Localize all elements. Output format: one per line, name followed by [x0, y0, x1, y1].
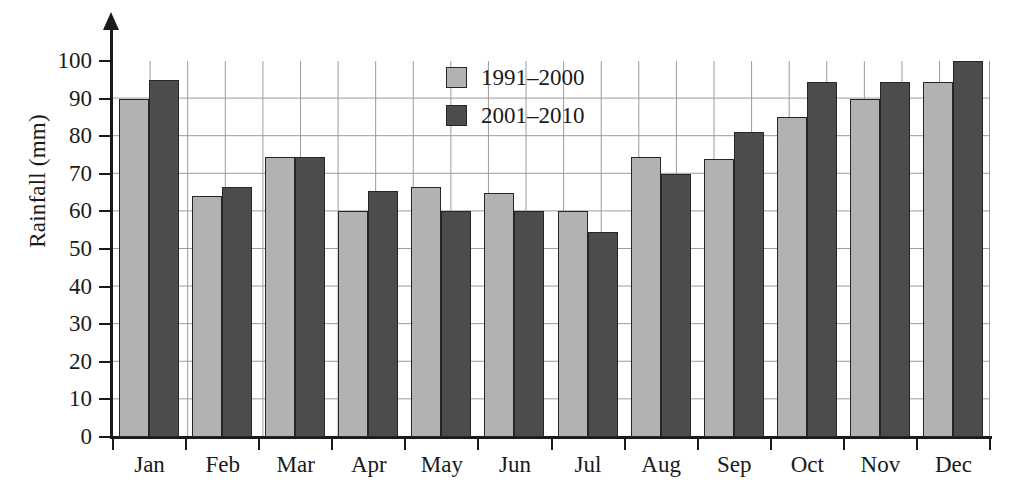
x-axis-tick-label: May [402, 452, 482, 477]
x-axis-tick-label: Mar [256, 452, 336, 477]
y-axis-tick-value: 20 [36, 350, 92, 373]
y-axis-tick-label: 90 [28, 87, 92, 111]
y-axis-tick-value: 80 [36, 124, 92, 147]
y-axis-tick-label: 30 [28, 312, 92, 336]
y-axis-tick-value: 0 [36, 425, 92, 448]
x-axis-tick [624, 437, 626, 450]
bar [441, 211, 471, 437]
y-axis-tick-label: 60 [28, 199, 92, 223]
y-axis-tick-label: 50 [28, 237, 92, 261]
y-axis-tick-label: 100 [28, 49, 92, 73]
y-axis-tick-label: 0 [28, 425, 92, 449]
y-axis-tick-value: 100 [36, 49, 92, 72]
y-axis-tick-label: 80 [28, 124, 92, 148]
x-axis-tick [185, 437, 187, 450]
x-axis-tick [551, 437, 553, 450]
y-axis-tick-label: 40 [28, 275, 92, 299]
y-axis-tick [99, 361, 113, 363]
x-axis-tick-label: Oct [767, 452, 847, 477]
x-axis-tick-label: Feb [183, 452, 263, 477]
legend-swatch [446, 105, 467, 126]
x-axis-tick [477, 437, 479, 450]
bar [368, 191, 398, 437]
bar [807, 82, 837, 437]
legend-label: 2001–2010 [481, 104, 585, 127]
x-axis-tick [112, 437, 114, 450]
legend-swatch [446, 67, 467, 88]
bar [514, 211, 544, 437]
bar [295, 157, 325, 437]
bar [558, 211, 588, 437]
y-axis-tick-value: 60 [36, 199, 92, 222]
x-axis-tick-label: Sep [694, 452, 774, 477]
bar [192, 196, 222, 437]
y-axis-arrow-icon [103, 12, 119, 30]
bar [222, 187, 252, 437]
x-axis-tick [843, 437, 845, 450]
bar [777, 117, 807, 437]
y-axis-tick [99, 398, 113, 400]
x-axis-tick [989, 437, 991, 450]
y-axis-tick [99, 323, 113, 325]
bar [734, 132, 764, 437]
legend-label: 1991–2000 [481, 66, 585, 89]
bar [923, 82, 953, 437]
y-axis-tick-label: 10 [28, 387, 92, 411]
y-axis-tick [99, 135, 113, 137]
x-axis-tick-label: Jun [475, 452, 555, 477]
x-axis-tick [404, 437, 406, 450]
y-axis-tick-value: 90 [36, 87, 92, 110]
bar [850, 99, 880, 437]
y-axis-tick-value: 40 [36, 275, 92, 298]
x-axis-tick [258, 437, 260, 450]
x-axis-tick-label: Jul [548, 452, 628, 477]
y-axis-tick [99, 286, 113, 288]
legend-item: 2001–2010 [446, 96, 585, 134]
y-axis-line [110, 26, 113, 439]
y-axis-tick-label: 20 [28, 350, 92, 374]
bar [631, 157, 661, 437]
x-axis-tick [770, 437, 772, 450]
y-axis-tick [99, 173, 113, 175]
bar [149, 80, 179, 437]
y-axis-tick-value: 70 [36, 162, 92, 185]
bar [338, 211, 368, 437]
legend-item: 1991–2000 [446, 58, 585, 96]
y-axis-tick [99, 60, 113, 62]
x-axis-tick-label: Jan [110, 452, 190, 477]
bar [119, 99, 149, 437]
legend: 1991–20002001–2010 [446, 58, 585, 134]
y-axis-tick [99, 98, 113, 100]
x-axis-tick [331, 437, 333, 450]
rainfall-bar-chart: Rainfall (mm) 0102030405060708090100 Jan… [0, 0, 1015, 502]
y-axis-tick-value: 30 [36, 312, 92, 335]
y-axis-tick [99, 248, 113, 250]
x-axis-tick-label: Aug [621, 452, 701, 477]
y-axis-tick-value: 50 [36, 237, 92, 260]
y-axis-tick-value: 10 [36, 387, 92, 410]
bar [265, 157, 295, 437]
grid-right-edge [989, 61, 990, 437]
x-axis-tick-label: Dec [913, 452, 993, 477]
x-axis-tick-label: Nov [840, 452, 920, 477]
bar [704, 159, 734, 437]
y-axis-tick [99, 436, 113, 438]
x-axis-tick-label: Apr [329, 452, 409, 477]
x-axis-tick [697, 437, 699, 450]
bar [880, 82, 910, 437]
bar [484, 193, 514, 437]
bar [953, 61, 983, 437]
y-axis-tick [99, 210, 113, 212]
bar [411, 187, 441, 437]
bar [588, 232, 618, 437]
bar [661, 174, 691, 437]
y-axis-tick-label: 70 [28, 162, 92, 186]
x-axis-tick [916, 437, 918, 450]
